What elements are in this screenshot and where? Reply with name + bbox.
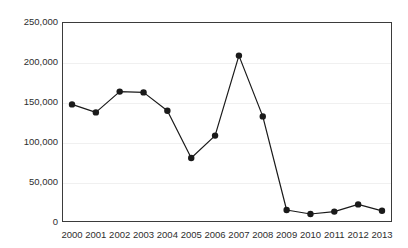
x-axis-tick-label: 2005 <box>181 230 202 240</box>
x-axis-tick-label: 2013 <box>371 230 392 240</box>
y-axis-tick-label: 50,000 <box>0 177 58 187</box>
y-axis-labels: 050,000100,000150,000200,000250,000 <box>0 0 58 248</box>
gridline <box>63 223 391 224</box>
data-point <box>69 101 75 107</box>
data-point <box>188 155 194 161</box>
x-axis-tick-label: 2007 <box>228 230 249 240</box>
data-point <box>283 207 289 213</box>
x-axis-tick-label: 2012 <box>348 230 369 240</box>
x-axis-tick-label: 2010 <box>300 230 321 240</box>
x-axis-labels: 2000200120022003200420052006200720082009… <box>62 230 392 246</box>
series-line <box>72 56 382 214</box>
data-point <box>164 108 170 114</box>
data-point <box>212 132 218 138</box>
data-point <box>331 208 337 214</box>
x-axis-tick-label: 2011 <box>324 230 344 240</box>
x-axis-tick-label: 2008 <box>252 230 273 240</box>
data-point <box>355 201 361 207</box>
data-series <box>62 22 392 222</box>
line-chart: 050,000100,000150,000200,000250,000 2000… <box>0 0 408 248</box>
y-axis-tick-label: 100,000 <box>0 137 58 147</box>
x-axis-tick-label: 2001 <box>85 230 106 240</box>
x-axis-tick-label: 2002 <box>109 230 130 240</box>
series-markers <box>69 52 385 217</box>
x-axis-tick-label: 2006 <box>204 230 225 240</box>
y-axis-tick-label: 250,000 <box>0 17 58 27</box>
data-point <box>236 52 242 58</box>
x-axis-tick-label: 2003 <box>133 230 154 240</box>
x-axis-tick-label: 2009 <box>276 230 297 240</box>
y-axis-tick-label: 150,000 <box>0 97 58 107</box>
data-point <box>307 211 313 217</box>
data-point <box>260 113 266 119</box>
data-point <box>116 88 122 94</box>
x-axis-tick-label: 2000 <box>61 230 82 240</box>
data-point <box>379 208 385 214</box>
data-point <box>93 109 99 115</box>
y-axis-tick-label: 0 <box>0 217 58 227</box>
x-axis-tick-label: 2004 <box>157 230 178 240</box>
data-point <box>140 89 146 95</box>
y-axis-tick-label: 200,000 <box>0 57 58 67</box>
